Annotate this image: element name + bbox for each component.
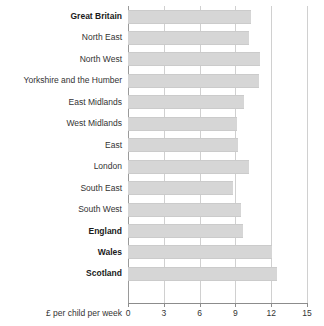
bar xyxy=(128,203,241,217)
x-tick-label: 6 xyxy=(190,308,210,319)
category-label: East xyxy=(0,140,122,150)
bar-row xyxy=(128,92,307,113)
category-label: Yorkshire and the Humber xyxy=(0,75,122,85)
bar xyxy=(128,74,259,88)
bar xyxy=(128,31,249,45)
x-tick xyxy=(128,303,129,307)
bar xyxy=(128,160,249,174)
bar xyxy=(128,117,237,131)
category-label: East Midlands xyxy=(0,97,122,107)
bar-row xyxy=(128,242,307,263)
x-tick xyxy=(271,303,272,307)
bar xyxy=(128,267,277,281)
bar-row xyxy=(128,6,307,27)
bar-row xyxy=(128,221,307,242)
category-label: North West xyxy=(0,54,122,64)
category-label: Scotland xyxy=(0,268,122,278)
x-tick-label: 9 xyxy=(225,308,245,319)
bar xyxy=(128,245,272,259)
bar-row xyxy=(128,49,307,70)
plot-area xyxy=(128,6,307,303)
x-tick xyxy=(164,303,165,307)
x-tick xyxy=(200,303,201,307)
x-tick xyxy=(235,303,236,307)
gridline-15 xyxy=(307,6,308,303)
bar-chart: Great BritainNorth EastNorth WestYorkshi… xyxy=(0,0,324,326)
bar xyxy=(128,52,260,66)
bar-series xyxy=(128,6,307,303)
x-axis-line xyxy=(128,303,308,304)
bar xyxy=(128,10,251,24)
x-tick-label: 3 xyxy=(154,308,174,319)
category-label: London xyxy=(0,161,122,171)
x-tick xyxy=(307,303,308,307)
bar-row xyxy=(128,199,307,220)
bar-row xyxy=(128,27,307,48)
category-label: West Midlands xyxy=(0,118,122,128)
category-label: Wales xyxy=(0,247,122,257)
bar-row xyxy=(128,113,307,134)
bar xyxy=(128,181,233,195)
bar-row xyxy=(128,135,307,156)
bar-row xyxy=(128,70,307,91)
bar xyxy=(128,138,238,152)
bar-row xyxy=(128,178,307,199)
category-label: North East xyxy=(0,32,122,42)
bar xyxy=(128,224,243,238)
category-label: Great Britain xyxy=(0,11,122,21)
bar-row xyxy=(128,156,307,177)
x-tick-label: 15 xyxy=(297,308,317,319)
category-label: South East xyxy=(0,183,122,193)
x-axis-title: £ per child per week xyxy=(0,308,122,319)
category-label: England xyxy=(0,226,122,236)
category-label: South West xyxy=(0,204,122,214)
bar xyxy=(128,95,244,109)
category-axis-labels: Great BritainNorth EastNorth WestYorkshi… xyxy=(0,6,122,303)
x-tick-label: 12 xyxy=(261,308,281,319)
bar-row xyxy=(128,263,307,284)
